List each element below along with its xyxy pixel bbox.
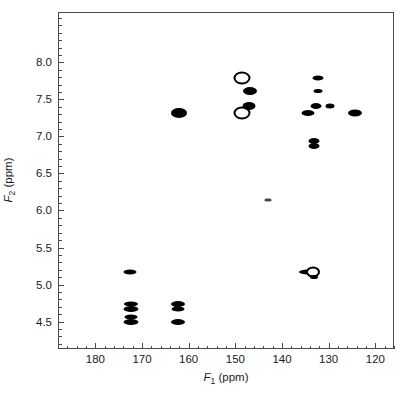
y-axis-minor-tick (58, 196, 62, 197)
spectrum-peak (301, 110, 314, 116)
x-axis-minor-tick (291, 346, 292, 350)
y-axis-major-tick (58, 173, 64, 174)
spectrum-peak (124, 315, 137, 320)
y-axis-tick-label: 6.0 (36, 204, 52, 216)
y-axis-minor-tick (58, 85, 62, 86)
y-axis-major-tick (58, 285, 64, 286)
x-axis-minor-tick (245, 346, 246, 350)
x-axis-minor-tick (226, 346, 227, 350)
x-axis-tick-label: 180 (86, 353, 105, 365)
y-axis-minor-tick (58, 255, 62, 256)
y-axis-minor-tick (58, 270, 62, 271)
peak-layer (59, 13, 393, 348)
y-axis-minor-tick (58, 299, 62, 300)
y-axis-minor-tick (58, 107, 62, 108)
x-axis-tick-label: 150 (226, 353, 245, 365)
y-axis-minor-tick (58, 18, 62, 19)
y-axis-tick-label: 5.5 (36, 242, 52, 254)
spectrum-peak (264, 199, 271, 202)
plot-area (58, 12, 394, 349)
x-axis-tick-label: 170 (132, 353, 151, 365)
y-axis-minor-tick (58, 33, 62, 34)
y-axis-minor-tick (58, 181, 62, 182)
y-axis-tick-label: 6.5 (36, 167, 52, 179)
y-axis-major-tick (58, 99, 64, 100)
y-axis-minor-tick (58, 114, 62, 115)
spectrum-peak (313, 76, 324, 81)
x-axis-major-tick (189, 343, 190, 349)
x-axis-minor-tick (123, 346, 124, 350)
y-axis-minor-tick (58, 240, 62, 241)
spectrum-peak (124, 302, 138, 307)
y-axis-minor-tick (58, 122, 62, 123)
y-axis-minor-tick (58, 55, 62, 56)
x-axis-major-tick (375, 343, 376, 349)
y-axis-minor-tick (58, 225, 62, 226)
y-axis-minor-tick (58, 25, 62, 26)
x-axis-tick-label: 130 (319, 353, 338, 365)
y-axis-minor-tick (58, 48, 62, 49)
y-axis-minor-tick (58, 144, 62, 145)
x-axis-minor-tick (263, 346, 264, 350)
spectrum-peak (174, 305, 178, 308)
y-axis-minor-tick (58, 262, 62, 263)
x-axis-minor-tick (170, 346, 171, 350)
y-axis-major-tick (58, 322, 64, 323)
x-axis-tick-label: 120 (366, 353, 385, 365)
x-axis-variable: F (204, 371, 211, 383)
y-axis-minor-tick (58, 188, 62, 189)
y-axis-major-tick (58, 248, 64, 249)
x-axis-unit: (ppm) (218, 371, 248, 383)
x-axis-minor-tick (105, 346, 106, 350)
spectrum-peak (171, 319, 185, 325)
x-axis-title: F1 (ppm) (58, 371, 394, 386)
x-axis-major-tick (142, 343, 143, 349)
y-axis-tick-label: 7.5 (36, 93, 52, 105)
x-axis-major-tick (329, 343, 330, 349)
spectrum-peak (310, 275, 318, 279)
spectrum-peak (233, 72, 250, 85)
y-axis-major-tick (58, 136, 64, 137)
x-axis-minor-tick (385, 346, 386, 350)
x-axis-minor-tick (301, 346, 302, 350)
y-axis-major-tick (58, 62, 64, 63)
y-axis-minor-tick (58, 40, 62, 41)
y-axis-subscript: 2 (7, 191, 17, 196)
x-axis-minor-tick (58, 346, 59, 350)
y-axis-minor-tick (58, 329, 62, 330)
y-axis-minor-tick (58, 70, 62, 71)
y-axis-minor-tick (58, 159, 62, 160)
spectrum-peak (313, 89, 322, 93)
x-axis-minor-tick (310, 346, 311, 350)
x-axis-minor-tick (273, 346, 274, 350)
spectrum-peak (309, 138, 320, 144)
x-axis-minor-tick (86, 346, 87, 350)
y-axis-minor-tick (58, 203, 62, 204)
x-axis-minor-tick (394, 346, 395, 350)
x-axis-minor-tick (179, 346, 180, 350)
y-axis-minor-tick (58, 233, 62, 234)
spectrum-peak (348, 109, 362, 116)
x-axis-minor-tick (338, 346, 339, 350)
y-axis-tick-label: 4.5 (36, 316, 52, 328)
x-axis-tick-label: 140 (272, 353, 291, 365)
x-axis-minor-tick (161, 346, 162, 350)
y-axis-minor-tick (58, 166, 62, 167)
x-axis-minor-tick (77, 346, 78, 350)
y-axis-unit: (ppm) (2, 158, 14, 188)
y-axis-tick-label: 7.0 (36, 130, 52, 142)
y-axis-minor-tick (58, 336, 62, 337)
y-axis-tick-label: 5.0 (36, 279, 52, 291)
y-axis-minor-tick (58, 277, 62, 278)
spectrum-peak (243, 102, 256, 110)
x-axis-minor-tick (357, 346, 358, 350)
y-axis-minor-tick (58, 92, 62, 93)
y-axis-minor-tick (58, 218, 62, 219)
x-axis-minor-tick (114, 346, 115, 350)
spectrum-peak (310, 103, 321, 109)
x-axis-major-tick (235, 343, 236, 349)
y-axis-minor-tick (58, 292, 62, 293)
spectrum-peak (325, 103, 334, 108)
y-axis-minor-tick (58, 151, 62, 152)
y-axis-title: F2 (ppm) (2, 158, 17, 203)
